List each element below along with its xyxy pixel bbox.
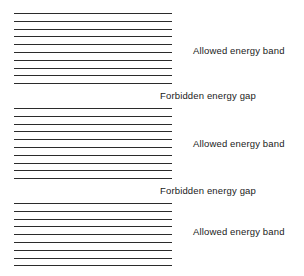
energy-level-line: [14, 258, 172, 259]
energy-level-line: [14, 68, 172, 69]
energy-level-line: [14, 131, 172, 132]
energy-level-line: [14, 139, 172, 140]
energy-level-line: [14, 265, 172, 266]
energy-level-line: [14, 13, 172, 14]
energy-level-line: [14, 52, 172, 53]
energy-level-line: [14, 108, 172, 109]
energy-level-line: [14, 234, 172, 235]
energy-level-line: [14, 44, 172, 45]
allowed-band-2-lines: [14, 108, 172, 180]
forbidden-gap-1-label: Forbidden energy gap: [160, 90, 256, 101]
allowed-band-1-lines: [14, 13, 172, 85]
energy-level-line: [14, 21, 172, 22]
allowed-band-1-label: Allowed energy band: [193, 45, 285, 56]
energy-level-line: [14, 29, 172, 30]
allowed-band-3-label: Allowed energy band: [193, 226, 285, 237]
energy-level-line: [14, 178, 172, 179]
allowed-band-3-lines: [14, 203, 172, 267]
forbidden-gap-2-label: Forbidden energy gap: [160, 185, 256, 196]
allowed-band-2-label: Allowed energy band: [193, 138, 285, 149]
energy-level-line: [14, 211, 172, 212]
energy-level-line: [14, 226, 172, 227]
energy-level-line: [14, 36, 172, 37]
energy-level-line: [14, 163, 172, 164]
energy-level-line: [14, 75, 172, 76]
energy-band-diagram: Allowed energy band Forbidden energy gap…: [0, 0, 304, 276]
energy-level-line: [14, 242, 172, 243]
energy-level-line: [14, 60, 172, 61]
energy-level-line: [14, 83, 172, 84]
energy-level-line: [14, 147, 172, 148]
energy-level-line: [14, 250, 172, 251]
energy-level-line: [14, 170, 172, 171]
energy-level-line: [14, 124, 172, 125]
energy-level-line: [14, 116, 172, 117]
energy-level-line: [14, 219, 172, 220]
energy-level-line: [14, 203, 172, 204]
energy-level-line: [14, 155, 172, 156]
